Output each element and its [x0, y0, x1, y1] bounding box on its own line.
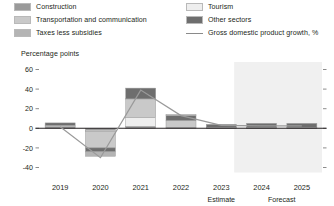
- legend-label-tourism: Tourism: [208, 3, 233, 11]
- chart-plot-area: 6040200-20-40 20192020202120222023202420…: [0, 60, 334, 206]
- x-tick-label: 2023: [213, 183, 229, 192]
- legend-label-taxes: Taxes less subsidies: [36, 29, 102, 37]
- y-axis-title: Percentage points: [21, 50, 79, 58]
- y-axis-labels: 6040200-20-40: [23, 66, 33, 172]
- legend-item-tourism: Tourism: [186, 3, 233, 11]
- legend-item-taxes: Taxes less subsidies: [14, 29, 102, 37]
- legend-swatch-construction: [14, 3, 31, 11]
- x-tick-label: 2025: [294, 183, 310, 192]
- x-tick-label: 2024: [253, 183, 269, 192]
- legend-swatch-taxes: [14, 29, 31, 37]
- legend-item-other-sectors: Other sectors: [186, 16, 251, 24]
- bar-segment: [85, 152, 115, 156]
- y-tick-label: 60: [25, 66, 33, 74]
- x-tick-label: 2019: [52, 183, 68, 192]
- bar-segment: [166, 120, 196, 127]
- forecast-note: Forecast: [268, 196, 296, 204]
- legend-swatch-tourism: [186, 3, 203, 11]
- legend-label-gdp-growth: Gross domestic product growth, %: [208, 29, 318, 37]
- y-tick-label: 0: [29, 125, 33, 133]
- legend-swatch-other-sectors: [186, 16, 203, 24]
- legend-line-gdp-growth: [186, 29, 203, 37]
- x-tick-label: 2021: [132, 183, 148, 192]
- legend-label-other-sectors: Other sectors: [208, 16, 251, 24]
- estimate-note: Estimate: [207, 196, 235, 204]
- legend-item-construction: Construction: [14, 3, 77, 11]
- y-tick-label: 20: [25, 105, 33, 113]
- y-tick-label: -40: [23, 164, 33, 172]
- y-tick-label: 40: [25, 86, 33, 94]
- x-tick-label: 2022: [173, 183, 189, 192]
- x-axis-labels: 2019202020212022202320242025: [52, 183, 310, 192]
- bar-segment: [126, 118, 156, 127]
- legend-swatch-transportation: [14, 16, 31, 24]
- legend-label-construction: Construction: [36, 3, 77, 11]
- legend-label-transportation: Transportation and communication: [36, 16, 147, 24]
- legend-item-gdp-growth: Gross domestic product growth, %: [186, 29, 318, 37]
- y-tick-label: -20: [23, 145, 33, 153]
- stacked-bar-chart: 6040200-20-40 20192020202120222023202420…: [0, 60, 334, 206]
- x-tick-label: 2020: [92, 183, 108, 192]
- axis-annotations: EstimateForecast: [207, 196, 295, 204]
- forecast-shading: [234, 62, 322, 173]
- legend-item-transportation: Transportation and communication: [14, 16, 147, 24]
- chart-legend: Construction Tourism Transportation and …: [0, 0, 334, 44]
- bar-segment: [45, 123, 75, 125]
